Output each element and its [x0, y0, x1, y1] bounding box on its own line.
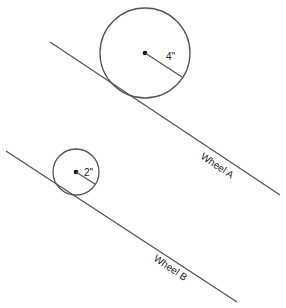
diagram-svg: 4" Wheel A 2" Wheel B	[0, 0, 286, 308]
wheel-a-label: Wheel A	[199, 151, 236, 181]
wheel-diagram: 4" Wheel A 2" Wheel B	[0, 0, 286, 308]
wheel-a-radius-label: 4"	[166, 51, 176, 62]
wheel-a-radius-line	[145, 53, 182, 77]
wheel-b-group: 2" Wheel B	[6, 149, 237, 302]
wheel-b-ramp	[6, 151, 237, 302]
wheel-b-radius-label: 2"	[84, 167, 94, 178]
